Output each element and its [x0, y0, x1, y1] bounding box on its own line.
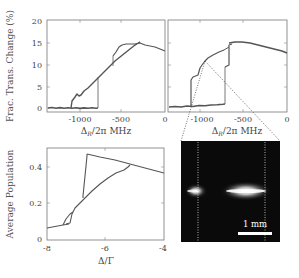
ytick-15: 15	[32, 39, 42, 48]
xtick--8: -8	[43, 244, 51, 253]
panel-top-right: -1000 -500 0 ΔR/2π MHz	[168, 20, 290, 137]
xtick-0: 0	[284, 115, 289, 124]
xlabel: ΔR/2π MHz	[212, 126, 263, 137]
xtick--4: -4	[159, 244, 167, 253]
ytick-5: 5	[37, 83, 42, 92]
xtick--1000: -1000	[190, 115, 213, 124]
xtick--1000: -1000	[68, 115, 91, 124]
xlabel: Δ/Γ	[98, 256, 114, 266]
plot-frame	[47, 148, 164, 240]
ytick-20: 20	[32, 17, 42, 26]
ytick-0: 0	[37, 235, 42, 244]
scale-bar-label: 1 mm	[243, 219, 267, 229]
panel-bottom-left: 0 0.2 0.4 -8 -6 -4 Δ/Γ Average Populatio…	[5, 148, 167, 266]
ytick-0: 0	[37, 104, 42, 113]
xlabel: ΔR/2π MHz	[81, 126, 132, 137]
ytick-0.4: 0.4	[29, 163, 42, 172]
scale-bar	[238, 232, 272, 235]
xtick-0: 0	[162, 115, 167, 124]
traces	[48, 42, 165, 108]
ytick-10: 10	[32, 61, 42, 70]
panel-top-left: 0 5 10 15 20 -1000 -500 0 ΔR/2π MHz Frac…	[5, 10, 168, 137]
plot-frame	[47, 20, 165, 112]
ytick-0.2: 0.2	[29, 199, 42, 208]
ylabel: Average Population	[5, 149, 15, 239]
panel-image: 1 mm	[181, 141, 280, 242]
ylabel: Frac. Trans. Change (%)	[5, 10, 15, 122]
xtick--500: -500	[112, 115, 130, 124]
traces	[169, 42, 287, 107]
figure: 0 5 10 15 20 -1000 -500 0 ΔR/2π MHz Frac…	[0, 0, 299, 278]
population-curve	[47, 154, 164, 228]
xtick--500: -500	[234, 115, 252, 124]
xtick--6: -6	[101, 244, 109, 253]
